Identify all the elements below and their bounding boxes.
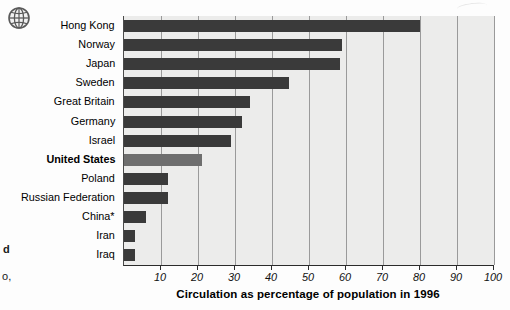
x-axis-title: Circulation as percentage of population …	[123, 288, 493, 300]
category-label: Hong Kong	[61, 19, 115, 32]
x-axis-tick-mark	[271, 266, 272, 270]
bar	[124, 135, 231, 147]
gridline	[420, 16, 421, 265]
x-axis-tick-label: 20	[178, 271, 216, 283]
gridline	[457, 16, 458, 265]
bar	[124, 77, 289, 89]
category-label: Germany	[71, 115, 115, 128]
bar	[124, 173, 168, 185]
category-label: Poland	[81, 172, 115, 185]
x-axis-tick-mark	[419, 266, 420, 270]
x-axis-tick-mark	[493, 266, 494, 270]
x-axis-tick-mark	[197, 266, 198, 270]
x-axis-tick-label: 40	[252, 271, 290, 283]
bar	[124, 20, 420, 32]
gridline	[494, 16, 495, 265]
x-axis-tick-mark	[345, 266, 346, 270]
margin-text-fragment-2: o,	[2, 270, 12, 282]
scan-artifact	[457, 1, 488, 13]
bar	[124, 116, 242, 128]
x-axis-tick-label: 80	[400, 271, 438, 283]
x-axis-tick-mark	[456, 266, 457, 270]
x-axis-tick-label: 70	[363, 271, 401, 283]
bar	[124, 230, 135, 242]
x-axis-tick-label: 60	[326, 271, 364, 283]
x-axis-tick-label: 90	[437, 271, 475, 283]
category-label: Sweden	[76, 76, 115, 89]
category-label: Iraq	[96, 248, 115, 261]
chart-figure: d o, Hong KongNorwayJapanSwedenGreat Bri…	[0, 0, 510, 310]
bar	[124, 39, 342, 51]
gridline	[346, 16, 347, 265]
category-label: United States	[46, 153, 115, 166]
category-label: Japan	[86, 57, 115, 70]
bar	[124, 249, 135, 261]
x-axis-tick-mark	[308, 266, 309, 270]
x-axis-tick-label: 10	[141, 271, 179, 283]
category-label-column: Hong KongNorwayJapanSwedenGreat BritainG…	[0, 16, 119, 265]
plot-area	[123, 16, 494, 266]
x-axis-tick-label: 50	[289, 271, 327, 283]
bar	[124, 96, 250, 108]
category-label: Iran	[96, 229, 115, 242]
x-axis-tick-label: 100	[474, 271, 510, 283]
x-axis-tick-mark	[382, 266, 383, 270]
category-label: Russian Federation	[21, 191, 115, 204]
category-label: Norway	[78, 38, 115, 51]
bar	[124, 192, 168, 204]
x-axis-tick-label: 30	[215, 271, 253, 283]
gridline	[272, 16, 273, 265]
bar	[124, 211, 146, 223]
category-label: Israel	[89, 134, 115, 147]
gridline	[235, 16, 236, 265]
x-axis-tick-mark	[160, 266, 161, 270]
x-axis-tick-mark	[234, 266, 235, 270]
gridline	[383, 16, 384, 265]
category-label: China*	[83, 210, 115, 223]
category-label: Great Britain	[54, 95, 115, 108]
gridline	[309, 16, 310, 265]
bar	[124, 58, 340, 70]
bar	[124, 154, 202, 166]
